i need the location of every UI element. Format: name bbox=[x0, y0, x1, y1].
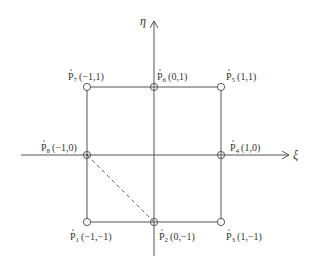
node-p4-label: P4(1,0) bbox=[230, 140, 260, 155]
node-p8-label: P8(−1,0) bbox=[41, 140, 77, 155]
svg-text:P3(1,−1): P3(1,−1) bbox=[226, 231, 262, 244]
node-p3-marker bbox=[217, 218, 224, 225]
hat-mark bbox=[72, 229, 73, 230]
hat-mark bbox=[228, 69, 229, 70]
svg-text:P1(−1,−1): P1(−1,−1) bbox=[70, 231, 112, 244]
svg-text:P6(0,1): P6(0,1) bbox=[157, 71, 187, 84]
svg-text:P7(−1,1): P7(−1,1) bbox=[68, 71, 104, 84]
node-p6-label: P6(0,1) bbox=[157, 69, 187, 84]
hat-mark bbox=[228, 229, 229, 230]
node-p7-label: P7(−1,1) bbox=[68, 69, 104, 84]
svg-text:P5(1,1): P5(1,1) bbox=[226, 71, 256, 84]
node-p5-label: P5(1,1) bbox=[226, 69, 256, 84]
svg-text:P4(1,0): P4(1,0) bbox=[230, 142, 260, 155]
node-p1-marker bbox=[83, 218, 90, 225]
hat-mark bbox=[232, 140, 233, 141]
node-p8-center-dot bbox=[86, 154, 88, 156]
node-p1-label: P1(−1,−1) bbox=[70, 229, 112, 244]
svg-text:P8(−1,0): P8(−1,0) bbox=[41, 142, 77, 155]
node-p3-label: P3(1,−1) bbox=[226, 229, 262, 244]
xi-axis-label: ξ bbox=[293, 148, 299, 162]
eta-axis-label: η bbox=[140, 14, 146, 28]
element-diagram: η ξ P7(−1,1) P6(0,1) P5(1,1) P8(−1,0) P4… bbox=[0, 0, 312, 273]
node-p2-label: P2(0,−1) bbox=[159, 229, 195, 244]
node-p7-marker bbox=[83, 83, 90, 90]
hat-mark bbox=[43, 140, 44, 141]
svg-text:P2(0,−1): P2(0,−1) bbox=[159, 231, 195, 244]
hat-mark bbox=[159, 69, 160, 70]
hat-mark bbox=[70, 69, 71, 70]
dashed-edge-p8-p2 bbox=[87, 155, 154, 222]
node-p5-marker bbox=[217, 83, 224, 90]
hat-mark bbox=[161, 229, 162, 230]
